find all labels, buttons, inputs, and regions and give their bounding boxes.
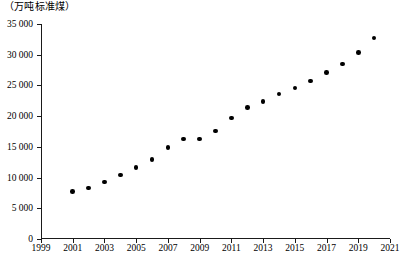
x-axis-tick-label: 2017 xyxy=(317,243,336,254)
data-point xyxy=(245,105,250,110)
data-point xyxy=(308,79,313,84)
data-point xyxy=(181,137,186,142)
y-axis-tick-label: 15 000 xyxy=(7,142,33,152)
data-point xyxy=(150,157,155,162)
y-axis-tick-label: 20 000 xyxy=(7,111,33,121)
y-axis-tick-mark xyxy=(37,85,41,86)
data-point xyxy=(70,189,75,194)
x-axis-line xyxy=(41,238,390,239)
data-point xyxy=(261,99,266,104)
y-axis-tick-label: 10 000 xyxy=(7,173,33,183)
y-axis-tick-label: 25 000 xyxy=(7,80,33,90)
data-point xyxy=(324,70,329,75)
x-axis-tick-label: 2007 xyxy=(158,243,177,254)
x-axis-tick-label: 2015 xyxy=(285,243,304,254)
x-axis-tick-label: 2021 xyxy=(381,243,400,254)
y-axis-tick-mark xyxy=(37,147,41,148)
x-axis-tick-label: 2001 xyxy=(63,243,82,254)
x-axis-tick-label: 1999 xyxy=(32,243,51,254)
x-axis-tick-label: 2009 xyxy=(190,243,209,254)
data-point xyxy=(372,36,377,41)
data-point xyxy=(293,86,298,91)
y-axis-line xyxy=(41,24,42,239)
y-axis-tick-mark xyxy=(37,208,41,209)
data-point xyxy=(118,173,123,178)
y-axis-tick-mark xyxy=(37,178,41,179)
x-axis-tick-label: 2013 xyxy=(254,243,273,254)
data-point xyxy=(134,165,139,170)
y-axis-tick-mark xyxy=(37,55,41,56)
x-axis-tick-label: 2011 xyxy=(222,243,241,254)
data-point xyxy=(197,137,202,142)
data-point xyxy=(213,129,218,134)
y-axis-tick-label: 5 000 xyxy=(12,203,33,213)
data-point xyxy=(166,145,171,150)
scatter-chart-figure: （万吨标准煤） 05 00010 00015 00020 00025 00030… xyxy=(0,0,405,270)
y-axis-tick-mark xyxy=(37,24,41,25)
x-axis-tick-label: 2019 xyxy=(349,243,368,254)
data-point xyxy=(86,186,91,191)
data-point xyxy=(102,180,107,185)
y-axis-unit-label: （万吨标准煤） xyxy=(4,1,75,13)
data-point xyxy=(356,50,361,55)
y-axis-tick-label: 35 000 xyxy=(7,19,33,29)
plot-area: 05 00010 00015 00020 00025 00030 00035 0… xyxy=(41,24,390,239)
y-axis-tick-mark xyxy=(37,116,41,117)
x-axis-tick-label: 2003 xyxy=(95,243,114,254)
x-axis-tick-label: 2005 xyxy=(127,243,146,254)
data-point xyxy=(277,92,282,97)
data-point xyxy=(229,116,234,121)
data-point xyxy=(340,62,345,67)
y-axis-tick-label: 30 000 xyxy=(7,50,33,60)
